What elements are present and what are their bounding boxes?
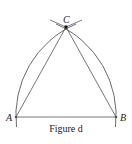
label-a: A (5, 112, 13, 123)
arc-centered-at-a (56, 24, 116, 127)
side-bc (66, 27, 116, 117)
point-b (115, 116, 118, 119)
label-c: C (63, 14, 70, 25)
arc-centered-at-b (16, 24, 76, 127)
side-ac (16, 27, 66, 117)
figure-caption: Figure d (49, 123, 83, 134)
equilateral-triangle-construction: A B C Figure d (0, 0, 132, 144)
point-a (15, 116, 18, 119)
label-b: B (120, 112, 126, 123)
point-c (65, 26, 68, 29)
